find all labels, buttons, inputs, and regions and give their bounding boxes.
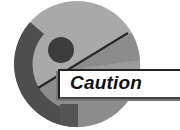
caution-label: Caution <box>70 72 142 94</box>
caution-label-box: Caution <box>58 69 180 99</box>
caution-disc-icon <box>0 0 180 130</box>
